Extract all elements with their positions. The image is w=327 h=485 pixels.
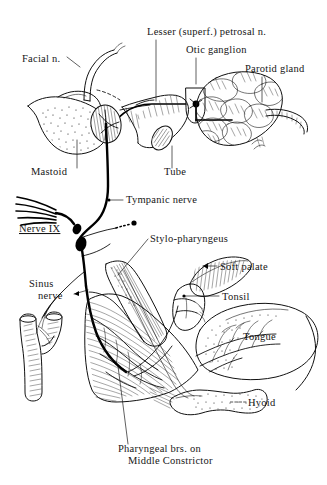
label-otic-ganglion: Otic ganglion [186, 44, 247, 55]
stylopharyngeus-muscle-structure [89, 260, 167, 354]
parotid-gland-structure [196, 70, 308, 150]
label-sinus-nerve-line1: Sinus [29, 278, 54, 289]
label-pharyngeal-branches-line2: Middle Constrictor [128, 455, 213, 466]
label-tympanic-nerve: Tympanic nerve [126, 194, 197, 205]
communicating-branch [80, 220, 137, 256]
label-stylopharyngeus: Stylo-pharyngeus [150, 233, 228, 244]
carotid-bifurcation-structure [20, 312, 62, 401]
label-tube: Tube [164, 166, 186, 177]
label-facial-nerve: Facial n. [22, 53, 60, 64]
auditory-tube-structure [122, 94, 189, 154]
tongue-structure [196, 303, 318, 390]
label-tonsil: Tonsil [222, 291, 250, 302]
label-lesser-petrosal-nerve: Lesser (superf.) petrosal n. [147, 26, 266, 38]
label-pharyngeal-branches-line1: Pharyngeal brs. on [118, 443, 201, 454]
label-tongue: Tongue [243, 331, 276, 342]
label-mastoid: Mastoid [31, 166, 68, 177]
facial-petrosal-connection [97, 90, 120, 100]
otic-ganglion-structure [186, 88, 232, 123]
anatomical-figure: Facial n. Lesser (superf.) petrosal n. O… [0, 0, 327, 485]
stylohyoid-strap [118, 270, 194, 398]
